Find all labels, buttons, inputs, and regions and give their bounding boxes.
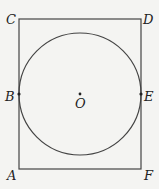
label-b: B	[4, 89, 15, 104]
label-o: O	[75, 96, 86, 111]
label-c: C	[6, 12, 16, 27]
point-o	[79, 93, 82, 96]
geometry-diagram: C D B E O A F	[0, 0, 159, 189]
label-e: E	[143, 89, 154, 104]
label-f: F	[143, 168, 154, 183]
point-e	[139, 92, 142, 95]
point-b	[17, 92, 20, 95]
label-a: A	[6, 168, 16, 183]
label-d: D	[142, 12, 154, 27]
